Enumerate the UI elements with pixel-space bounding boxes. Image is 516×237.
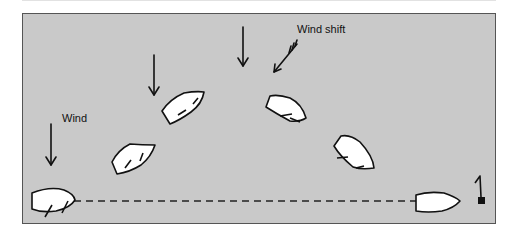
mark-flag-icon (475, 176, 485, 204)
diagram-canvas (0, 0, 516, 237)
boat-icon (266, 95, 306, 122)
boat-icon (334, 136, 374, 169)
wind-arrow-icon (46, 124, 56, 165)
wind-shift-arrow-icon (274, 40, 297, 72)
boat-icon (32, 189, 75, 217)
boat-icon (162, 92, 204, 124)
boat-icon (112, 144, 155, 174)
wind-arrow-icon (238, 27, 248, 66)
boat-icon (416, 192, 460, 212)
wind-arrow-icon (149, 55, 159, 95)
